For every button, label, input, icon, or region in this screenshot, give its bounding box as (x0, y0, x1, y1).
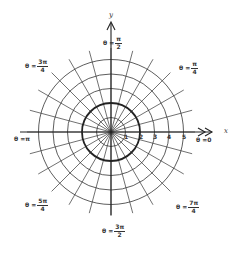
fraction: 7π 4 (188, 200, 199, 214)
radial-line (69, 59, 111, 132)
radial-line (30, 132, 111, 154)
radial-line (111, 132, 153, 205)
angle-label-pi-over-4: θ = π 4 (179, 61, 198, 75)
radial-line (38, 132, 111, 174)
y-axis-label: y (109, 12, 113, 19)
polar-grid-diagram: x y 1 2 3 4 5 θ = π 2 θ = π 4 θ = 3π 4 θ… (0, 0, 241, 253)
fraction: 3π 4 (37, 59, 48, 73)
radial-line (111, 73, 170, 132)
radial-line (111, 59, 153, 132)
radius-tick-3: 3 (153, 134, 157, 140)
radial-line (30, 110, 111, 132)
angle-label-pi: θ = π (14, 136, 30, 142)
angle-label-pi-over-2: θ = π 2 (103, 36, 122, 50)
radial-line (89, 51, 111, 132)
fraction: 5π 4 (37, 198, 48, 212)
radius-tick-2: 2 (139, 134, 143, 140)
radial-line (52, 132, 111, 191)
radial-line (111, 132, 184, 174)
angle-label-7pi-over-4: θ = 7π 4 (176, 200, 199, 214)
x-axis-label: x (224, 128, 228, 135)
radius-tick-4: 4 (167, 134, 171, 140)
fraction: π 2 (115, 36, 122, 50)
radial-line (111, 90, 184, 132)
radial-line (89, 132, 111, 213)
fraction: π 4 (191, 61, 198, 75)
radial-line (111, 132, 133, 213)
angle-label-3pi-over-2: θ = 3π 2 (102, 224, 125, 238)
radial-line (52, 73, 111, 132)
radial-line (69, 132, 111, 205)
radial-line (111, 110, 192, 132)
angle-label-3pi-over-4: θ = 3π 4 (25, 59, 48, 73)
radial-line (111, 51, 133, 132)
angle-label-5pi-over-4: θ = 5π 4 (25, 198, 48, 212)
angle-label-zero: θ = 0 (196, 137, 211, 143)
radius-tick-1: 1 (124, 134, 128, 140)
radial-line (38, 90, 111, 132)
radius-tick-5: 5 (182, 134, 186, 140)
fraction: 3π 2 (114, 224, 125, 238)
radial-line (111, 132, 170, 191)
